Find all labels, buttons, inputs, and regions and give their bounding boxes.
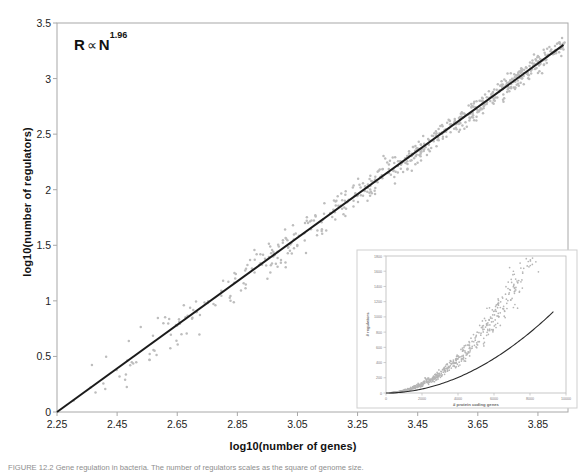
svg-text:1400: 1400 [374,285,382,289]
scaling-annotation: R∝N1.96 [74,36,127,53]
svg-text:2000: 2000 [418,397,426,401]
y-tick-label: 2.5 [20,128,51,140]
x-tick-label: 3.65 [468,418,488,430]
x-tick-label: 2.25 [47,418,67,430]
y-tick-label: 1 [20,295,51,307]
scatter-plot-svg: 0200400600800100012001400160018000200040… [0,0,586,473]
y-tick-label: 0 [20,406,51,418]
x-tick-label: 3.05 [287,418,307,430]
svg-text:1000: 1000 [374,315,382,319]
svg-text:0: 0 [385,397,387,401]
annotation-variable: N [99,36,110,53]
svg-text:1800: 1800 [374,255,382,259]
svg-text:1200: 1200 [374,300,382,304]
svg-text:800: 800 [376,331,382,335]
y-tick-label: 1.5 [20,239,51,251]
x-tick-label: 3.45 [407,418,427,430]
inset-x-axis-title: # protein coding genes [453,402,500,407]
svg-text:200: 200 [376,376,382,380]
x-tick-label: 2.65 [167,418,187,430]
svg-text:400: 400 [376,361,382,365]
inset-y-axis-title: # regulators [365,312,370,337]
proportional-symbol: ∝ [85,37,99,53]
svg-text:600: 600 [376,346,382,350]
x-tick-label: 3.25 [347,418,367,430]
figure-panel: 0200400600800100012001400160018000200040… [0,0,586,473]
svg-text:10000: 10000 [561,397,571,401]
svg-text:6000: 6000 [490,397,498,401]
svg-text:1600: 1600 [374,270,382,274]
svg-text:0: 0 [380,392,382,396]
y-tick-label: 3.5 [20,17,51,29]
y-axis-title: log10(number of regulators) [21,87,33,317]
x-tick-label: 2.85 [227,418,247,430]
y-tick-label: 0.5 [20,350,51,362]
x-axis-title: log10(number of genes) [0,440,586,452]
svg-text:4000: 4000 [454,397,462,401]
x-tick-label: 2.45 [107,418,127,430]
y-tick-label: 2 [20,184,51,196]
annotation-base: R [74,36,85,53]
x-tick-label: 3.85 [528,418,548,430]
figure-caption: FIGURE 12.2 Gene regulation in bacteria.… [8,463,580,473]
svg-text:8000: 8000 [526,397,534,401]
annotation-exponent: 1.96 [110,30,128,40]
y-tick-label: 3 [20,73,51,85]
